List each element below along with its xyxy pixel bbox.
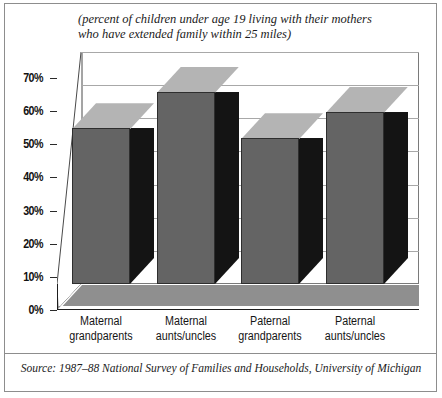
y-axis-tick [50,244,57,245]
bar-front-face [72,128,130,284]
x-axis-category-label: Paternalgrandparents [227,314,313,343]
bar-column [72,128,130,284]
bar-column [326,112,384,284]
chart-subtitle: (percent of children under age 19 living… [78,12,428,41]
y-axis-line [57,284,58,310]
x-axis-category-line: grandparents [58,329,144,344]
bar-front-face [241,138,299,284]
x-axis-category-line: Maternal [143,314,229,329]
bar-side-face [384,112,408,284]
x-axis-category-line: Paternal [227,314,313,329]
bar-front-face [326,112,384,284]
source-note: Source: 1987–88 National Survey of Famil… [0,362,442,374]
y-axis-tick-label: 0% [9,302,43,317]
chart-figure: (percent of children under age 19 living… [0,0,442,398]
y-axis-tick-label: 70% [9,70,43,85]
y-axis-tick-label: 30% [9,203,43,218]
chart-subtitle-line-1: (percent of children under age 19 living… [78,12,428,27]
y-axis-tick [50,111,57,112]
x-axis-category-label: Paternalaunts/uncles [312,314,398,343]
y-axis-tick [50,177,57,178]
x-axis-category-line: Maternal [58,314,144,329]
y-axis-tick [50,78,57,79]
bar-front-face [157,92,215,284]
y-axis-tick [50,277,57,278]
y-axis-tick-label: 60% [9,103,43,118]
bar-side-face [130,128,154,284]
bar-column [241,138,299,284]
chart-subtitle-line-2: who have extended family within 25 miles… [78,27,428,42]
y-axis-tick [50,144,57,145]
gridline [81,52,419,53]
x-axis-category-line: aunts/uncles [143,329,229,344]
y-axis-tick-label: 20% [9,236,43,251]
gridline [81,85,419,86]
x-axis-category-label: Maternalgrandparents [58,314,144,343]
x-axis-category-line: aunts/uncles [312,329,398,344]
bar-side-face [215,92,239,284]
y-axis-tick-label: 10% [9,269,43,284]
plot-area [57,52,419,310]
x-axis-category-line: Paternal [312,314,398,329]
y-axis-tick [50,211,57,212]
y-axis-tick [50,310,57,311]
x-axis-category-line: grandparents [227,329,313,344]
y-axis-tick-label: 50% [9,136,43,151]
x-axis-category-label: Maternalaunts/uncles [143,314,229,343]
bar-column [157,92,215,284]
source-divider [5,353,436,354]
chart-floor [57,284,419,310]
y-axis-tick-label: 40% [9,169,43,184]
x-axis-line [57,309,419,310]
